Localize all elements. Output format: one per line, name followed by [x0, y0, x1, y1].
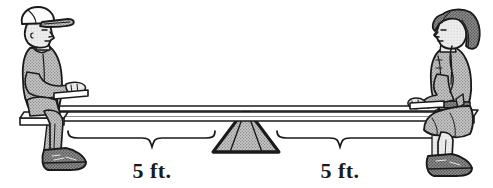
right-distance-label: 5 ft. — [320, 158, 359, 183]
girl-handle-bar — [410, 101, 444, 109]
seesaw-plank — [31, 106, 462, 121]
seesaw-illustration: 5 ft. 5 ft. — [0, 0, 493, 188]
seesaw-diagram: 5 ft. 5 ft. — [0, 0, 493, 188]
left-distance-label: 5 ft. — [132, 158, 171, 183]
girl-shoe-sole — [428, 168, 472, 169]
plank-top-face — [31, 106, 462, 111]
boy-shoe-sole — [44, 162, 86, 163]
